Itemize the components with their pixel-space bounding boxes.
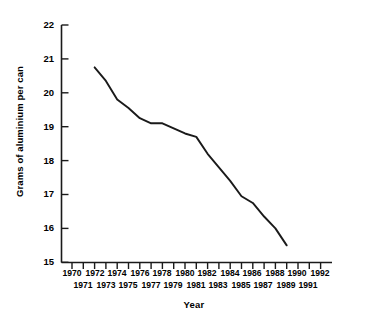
- plot-area: [0, 0, 388, 326]
- x-axis-ticks: [72, 263, 321, 270]
- data-line-aluminium-per-can: [95, 67, 287, 245]
- y-axis-ticks: [62, 25, 69, 262]
- chart-figure: Grams of aluminium per can 22 21 20 19 1…: [0, 0, 388, 326]
